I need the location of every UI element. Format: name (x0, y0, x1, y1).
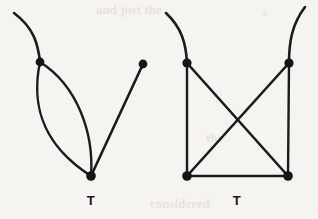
left-tangle-bigon-right-arc (40, 62, 91, 176)
figure-canvas: TT and just thestheconsidered (0, 0, 318, 219)
right-tangle-top-right-corner (284, 58, 293, 67)
right-tangle-bottom-left-corner (182, 171, 192, 181)
tangle-diagram-svg (0, 0, 318, 219)
left-tangle-label: T (87, 194, 95, 207)
right-tangle-top-left-corner (182, 58, 191, 67)
left-tangle-free-strand-upper-left (14, 13, 40, 62)
right-tangle-free-strand-upper-left (166, 13, 187, 63)
right-tangle (166, 7, 305, 181)
left-tangle-upper-right-endpoint (139, 60, 148, 69)
right-tangle-bottom-right-corner (283, 171, 293, 181)
right-tangle-right-edge (288, 63, 289, 176)
right-tangle-free-strand-upper-right (289, 7, 305, 63)
left-tangle-upper-left-vertex (36, 58, 45, 67)
left-tangle-bottom-vertex (86, 171, 96, 181)
left-tangle-straight-strand-to-right-endpoint (91, 64, 143, 176)
left-tangle (14, 13, 147, 181)
right-tangle-label: T (233, 194, 241, 207)
